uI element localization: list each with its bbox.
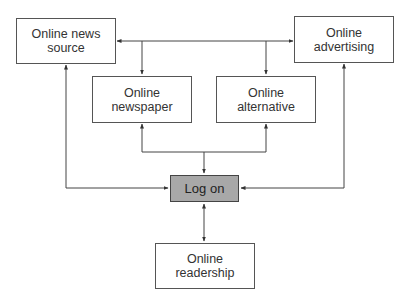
- node-label-line2: advertising: [314, 40, 374, 54]
- node-online-news-source: Online news source: [16, 18, 116, 64]
- node-label-line1: Online: [314, 26, 374, 40]
- node-label-line2: readership: [175, 266, 234, 280]
- node-label-line2: newspaper: [111, 100, 172, 114]
- node-label-line1: Online: [237, 86, 295, 100]
- node-label: Log on: [185, 182, 225, 196]
- node-label-line2: source: [32, 41, 101, 55]
- node-label-line1: Online: [111, 86, 172, 100]
- node-online-readership: Online readership: [155, 243, 255, 289]
- node-label-line2: alternative: [237, 100, 295, 114]
- node-online-newspaper: Online newspaper: [92, 76, 192, 123]
- node-online-alternative: Online alternative: [216, 76, 316, 123]
- node-label-line1: Online: [175, 252, 234, 266]
- node-online-advertising: Online advertising: [294, 16, 394, 63]
- node-log-on: Log on: [170, 175, 239, 202]
- node-label-line1: Online news: [32, 27, 101, 41]
